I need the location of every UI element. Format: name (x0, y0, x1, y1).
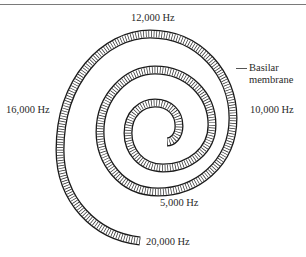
label-20000-hz: 20,000 Hz (146, 236, 190, 248)
basilar-membrane-spiral (60, 34, 233, 241)
label-basilar-membrane-line2: membrane (249, 74, 293, 86)
cochlea-spiral-diagram (0, 0, 306, 257)
label-basilar-membrane-line1: Basilar (249, 62, 279, 74)
label-16000-hz: 16,000 Hz (6, 104, 50, 116)
basilar-membrane-leader-line (236, 68, 247, 69)
label-12000-hz: 12,000 Hz (131, 12, 175, 24)
label-5000-hz: 5,000 Hz (160, 197, 199, 209)
label-10000-hz: 10,000 Hz (250, 104, 294, 116)
